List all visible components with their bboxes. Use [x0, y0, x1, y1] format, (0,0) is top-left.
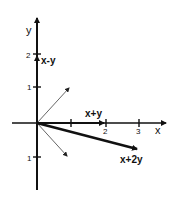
x-tick-label-2: 2 — [103, 127, 108, 136]
x-tick-label-3: 3 — [136, 127, 141, 136]
y-tick-label-1: 1 — [27, 83, 32, 92]
y-tick-label-neg-1: 1 — [27, 154, 32, 163]
vector-label-x-plus-2y: x+2y — [120, 154, 143, 165]
vector-label-x-minus-y: x-y — [41, 55, 56, 66]
y-tick-label-2: 2 — [26, 51, 31, 60]
vector-unit-up-right — [37, 88, 69, 123]
x-axis-label: x — [155, 124, 161, 136]
vector-diagram: 2 1 1 2 3 y x x-y x+y x+2y — [0, 0, 173, 200]
vector-x-plus-2y — [37, 123, 137, 149]
y-axis-label: y — [26, 24, 32, 36]
vector-label-x-plus-y: x+y — [85, 108, 102, 119]
